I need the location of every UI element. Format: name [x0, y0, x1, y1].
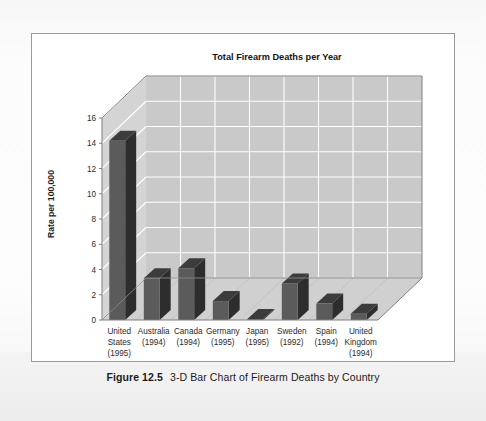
y-tick-label: 2 [91, 291, 96, 300]
x-category-label: (1995) [107, 349, 131, 358]
x-category-label: (1992) [280, 338, 304, 347]
x-category-label: (1994) [142, 338, 166, 347]
bar [144, 268, 171, 320]
chart-title: Total Firearm Deaths per Year [212, 52, 342, 62]
x-category-label: United [349, 327, 373, 336]
x-category-label: Sweden [277, 327, 307, 336]
x-category-label: Australia [138, 327, 170, 336]
x-category-label: (1994) [176, 338, 200, 347]
y-tick-label: 8 [91, 215, 96, 224]
y-axis-tick-labels: 0246810121416 [87, 114, 97, 325]
x-category-label: Canada [174, 327, 203, 336]
y-tick-label: 6 [91, 240, 96, 249]
chart-frame: 0246810121416 UnitedStates(1995)Australi… [31, 33, 455, 362]
x-category-label: (1994) [314, 338, 338, 347]
bar [178, 258, 205, 320]
y-tick-label: 16 [87, 114, 97, 123]
bar [282, 273, 309, 320]
y-tick-label: 12 [87, 165, 97, 174]
y-axis-label: Rate per 100,000 [46, 170, 56, 238]
y-tick-label: 10 [87, 190, 97, 199]
figure-description: 3-D Bar Chart of Firearm Deaths by Count… [170, 371, 380, 383]
page-background-lower [0, 352, 486, 421]
y-tick-label: 14 [87, 139, 97, 148]
y-tick-label: 0 [91, 316, 96, 325]
x-category-label: (1994) [349, 349, 373, 358]
x-category-label: Kingdom [345, 338, 377, 347]
x-category-label: United [107, 327, 131, 336]
figure-number: Figure 12.5 [106, 371, 163, 383]
figure-page: 0246810121416 UnitedStates(1995)Australi… [0, 0, 486, 421]
figure-caption: Figure 12.53-D Bar Chart of Firearm Deat… [31, 371, 455, 383]
x-category-label: (1995) [211, 338, 235, 347]
x-category-label: States [108, 338, 131, 347]
y-tick-label: 4 [91, 266, 96, 275]
x-category-label: (1995) [245, 338, 269, 347]
x-category-label: Spain [316, 327, 337, 336]
x-axis-category-labels: UnitedStates(1995)Australia(1994)Canada(… [107, 327, 377, 358]
bar-chart-3d: 0246810121416 UnitedStates(1995)Australi… [32, 34, 454, 361]
x-category-label: Germany [206, 327, 241, 336]
x-category-label: Japan [246, 327, 269, 336]
